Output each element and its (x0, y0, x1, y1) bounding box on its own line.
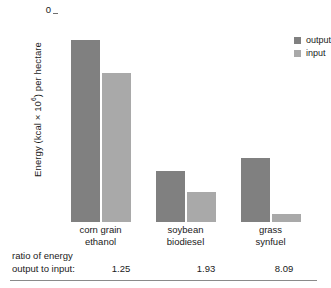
legend: output input (294, 35, 331, 61)
bar-input-soybean-biodiesel (187, 192, 216, 222)
category-label-soybean-biodiesel-line1: soybean (168, 224, 204, 235)
legend-swatch-output-icon (294, 37, 301, 44)
ratio-footnote-row: ratio of energy output to input: 1.25 1.… (0, 250, 327, 276)
legend-label-input: input (306, 48, 326, 58)
y-tick-0 (53, 13, 58, 14)
category-label-grass-synfuel-line2: synfuel (228, 236, 313, 248)
ratio-value-soybean-biodiesel: 1.93 (171, 263, 241, 276)
legend-label-output: output (306, 35, 331, 45)
category-label-corn-grain-ethanol-line2: ethanol (58, 236, 143, 248)
ratio-footnote-label: ratio of energy output to input: (12, 250, 75, 275)
ratio-value-corn-grain-ethanol: 1.25 (86, 263, 156, 276)
legend-swatch-input-icon (294, 50, 301, 57)
ratio-footnote-label-line2: output to input: (12, 263, 75, 274)
bar-output-corn-grain-ethanol (71, 40, 100, 222)
plot-area: 0 5 10 15 20 25 o (58, 14, 313, 222)
y-axis-title-prefix: Energy (kcal × 10 (32, 101, 43, 177)
legend-entry-output: output (294, 35, 331, 45)
ratio-footnote-label-line1: ratio of energy (12, 250, 73, 261)
bottom-divider (10, 280, 317, 281)
y-axis-title: Energy (kcal × 106) per hectare (32, 5, 43, 215)
bar-input-grass-synfuel (272, 214, 301, 222)
x-axis-category-labels: corn grain ethanol soybean biodiesel gra… (58, 224, 313, 252)
y-axis-title-suffix: ) per hectare (32, 42, 43, 97)
ratio-value-grass-synfuel: 8.09 (249, 263, 319, 276)
legend-entry-input: input (294, 48, 331, 58)
bar-input-corn-grain-ethanol (102, 73, 131, 222)
category-label-grass-synfuel-line1: grass (259, 224, 282, 235)
bar-output-grass-synfuel (241, 158, 270, 222)
category-label-soybean-biodiesel-line2: biodiesel (143, 236, 228, 248)
category-label-soybean-biodiesel: soybean biodiesel (143, 224, 228, 247)
y-tick-label-0: 0 (46, 4, 51, 15)
y-axis-title-exponent: 6 (30, 97, 37, 101)
category-label-corn-grain-ethanol-line1: corn grain (79, 224, 121, 235)
category-label-grass-synfuel: grass synfuel (228, 224, 313, 247)
category-label-corn-grain-ethanol: corn grain ethanol (58, 224, 143, 247)
bar-output-soybean-biodiesel (156, 171, 185, 222)
